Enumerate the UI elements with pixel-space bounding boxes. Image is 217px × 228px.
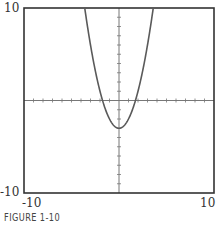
axes <box>24 8 214 193</box>
y-min-label: -10 <box>0 185 19 199</box>
x-min-label: -10 <box>22 196 41 210</box>
y-max-label: 10 <box>4 1 19 15</box>
x-max-label: 10 <box>200 196 215 210</box>
plot-canvas <box>0 0 217 228</box>
figure-caption: FIGURE 1-10 <box>4 212 60 223</box>
